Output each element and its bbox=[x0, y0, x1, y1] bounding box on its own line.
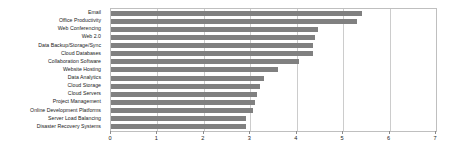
category-label: Cloud Storage bbox=[0, 81, 104, 89]
axis-tick-mark bbox=[203, 131, 204, 134]
category-label: Data Backup/Storage/Sync bbox=[0, 41, 104, 49]
category-label: Web Conferencing bbox=[0, 24, 104, 32]
bar-row bbox=[111, 74, 436, 82]
bar bbox=[111, 59, 299, 64]
axis-tick-label: 2 bbox=[196, 135, 210, 142]
bar-row bbox=[111, 9, 436, 17]
bar-chart: Email Office Productivity Web Conferenci… bbox=[0, 0, 452, 159]
bar bbox=[111, 76, 264, 81]
axis-tick-mark bbox=[389, 131, 390, 134]
bar bbox=[111, 51, 313, 56]
bar-row bbox=[111, 98, 436, 106]
bar-row bbox=[111, 25, 436, 33]
category-label: Cloud Servers bbox=[0, 89, 104, 97]
axis-tick-label: 1 bbox=[149, 135, 163, 142]
axis-tick-label: 6 bbox=[382, 135, 396, 142]
bar bbox=[111, 67, 278, 72]
axis-tick-mark bbox=[249, 131, 250, 134]
category-label: Online Development Platforms bbox=[0, 106, 104, 114]
category-label: Server Load Balancing bbox=[0, 114, 104, 122]
category-label: Email bbox=[0, 8, 104, 16]
bar-row bbox=[111, 90, 436, 98]
bars-layer bbox=[111, 9, 436, 131]
bar bbox=[111, 43, 313, 48]
category-label: Project Management bbox=[0, 97, 104, 105]
bar-row bbox=[111, 107, 436, 115]
bar-row bbox=[111, 115, 436, 123]
category-label: Website Hosting bbox=[0, 65, 104, 73]
bar bbox=[111, 11, 362, 16]
category-label: Cloud Databases bbox=[0, 49, 104, 57]
bar-row bbox=[111, 50, 436, 58]
axis-tick-mark bbox=[156, 131, 157, 134]
category-label: Collaboration Software bbox=[0, 57, 104, 65]
bar bbox=[111, 100, 255, 105]
category-axis: Email Office Productivity Web Conferenci… bbox=[0, 8, 104, 130]
category-label: Office Productivity bbox=[0, 16, 104, 24]
category-label: Disaster Recovery Systems bbox=[0, 122, 104, 130]
axis-tick-mark bbox=[110, 131, 111, 134]
bar bbox=[111, 108, 253, 113]
bar bbox=[111, 35, 315, 40]
bar bbox=[111, 19, 357, 24]
bar bbox=[111, 116, 246, 121]
plot-area bbox=[110, 8, 437, 132]
axis-tick-mark bbox=[342, 131, 343, 134]
bar-row bbox=[111, 66, 436, 74]
bar bbox=[111, 84, 260, 89]
bar-row bbox=[111, 17, 436, 25]
bar bbox=[111, 27, 318, 32]
axis-tick-label: 5 bbox=[335, 135, 349, 142]
axis-tick-mark bbox=[435, 131, 436, 134]
category-label: Data Analytics bbox=[0, 73, 104, 81]
bar-row bbox=[111, 58, 436, 66]
bar-row bbox=[111, 33, 436, 41]
bar-row bbox=[111, 123, 436, 131]
axis-tick-label: 4 bbox=[289, 135, 303, 142]
bar-row bbox=[111, 82, 436, 90]
axis-tick-label: 0 bbox=[103, 135, 117, 142]
axis-tick-label: 3 bbox=[242, 135, 256, 142]
category-label: Web 2.0 bbox=[0, 32, 104, 40]
bar bbox=[111, 92, 257, 97]
value-axis: 01234567 bbox=[110, 131, 436, 153]
bar bbox=[111, 124, 246, 129]
axis-tick-label: 7 bbox=[428, 135, 442, 142]
axis-tick-mark bbox=[296, 131, 297, 134]
bar-row bbox=[111, 42, 436, 50]
